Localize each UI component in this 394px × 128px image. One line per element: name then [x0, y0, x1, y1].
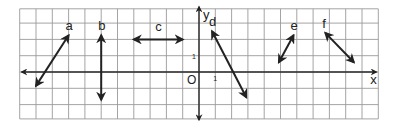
- segment-label-a: a: [66, 18, 74, 33]
- segment-label-b: b: [98, 18, 105, 33]
- segment-label-c: c: [155, 19, 162, 34]
- x-unit-tick-label: 1: [213, 75, 217, 82]
- segment-label-d: d: [209, 14, 216, 29]
- origin-label: O: [187, 73, 196, 87]
- segment-label-e: e: [291, 18, 298, 33]
- segment-d: [212, 31, 246, 97]
- coordinate-plane-diagram: x y O 1 1 abcdef: [0, 0, 394, 128]
- y-unit-tick-label: 1: [192, 53, 196, 60]
- x-axis-label: x: [370, 72, 377, 87]
- segment-label-f: f: [322, 16, 326, 31]
